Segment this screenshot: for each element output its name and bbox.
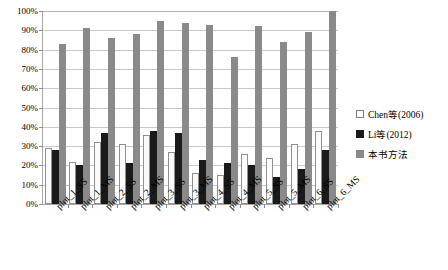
chart-legend: Chen等(2006)Li等(2012)本书方法 <box>356 108 448 168</box>
bar <box>329 11 336 204</box>
y-axis-tick-label: 90% <box>22 26 39 35</box>
bar-group <box>240 11 265 204</box>
y-axis-tick-label: 30% <box>22 142 39 151</box>
x-axis: plot_1_SSplot_1_MSplot_2_SSplot_2_MSplot… <box>42 205 337 270</box>
legend-item[interactable]: 本书方法 <box>356 148 448 159</box>
y-axis-tick-label: 100% <box>17 7 38 16</box>
y-axis: 100%90%80%70%60%50%40%30%20%10%0% <box>0 0 38 270</box>
legend-label: Chen等(2006) <box>368 107 423 121</box>
y-axis-tick-label: 10% <box>22 180 39 189</box>
y-axis-tick-label: 80% <box>22 45 39 54</box>
bar-group <box>141 11 166 204</box>
legend-swatch-icon <box>356 150 364 158</box>
legend-item[interactable]: Chen等(2006) <box>356 108 448 119</box>
y-axis-tick-label: 70% <box>22 64 39 73</box>
legend-label: Li等(2012) <box>368 127 412 141</box>
legend-swatch-icon <box>356 110 364 118</box>
bar-group <box>191 11 216 204</box>
plot-area <box>42 11 338 205</box>
legend-label: 本书方法 <box>368 147 408 161</box>
y-axis-tick-label: 40% <box>22 122 39 131</box>
y-axis-tick-label: 0% <box>26 200 38 209</box>
bar-group <box>166 11 191 204</box>
bar <box>59 44 66 204</box>
bar-group <box>289 11 314 204</box>
bar-group <box>92 11 117 204</box>
bar-chart: 100%90%80%70%60%50%40%30%20%10%0% plot_1… <box>0 0 448 270</box>
legend-swatch-icon <box>356 130 364 138</box>
bar-group <box>264 11 289 204</box>
y-axis-tick-label: 60% <box>22 84 39 93</box>
bar-group <box>215 11 240 204</box>
bar-group <box>68 11 93 204</box>
bar <box>45 148 52 204</box>
legend-item[interactable]: Li等(2012) <box>356 128 448 139</box>
bar-group <box>117 11 142 204</box>
bar-group <box>313 11 338 204</box>
bar-group <box>43 11 68 204</box>
y-axis-tick-label: 50% <box>22 103 39 112</box>
bar <box>52 150 59 204</box>
bar <box>182 23 189 204</box>
y-axis-tick-label: 20% <box>22 161 39 170</box>
